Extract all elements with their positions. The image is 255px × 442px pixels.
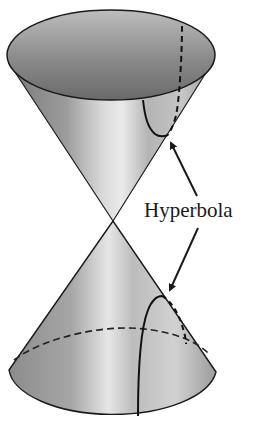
lower-nappe-side — [9, 221, 216, 414]
upper-nappe-opening — [7, 10, 215, 100]
arrow-to-upper-branch — [171, 143, 197, 196]
double-cone-diagram: Hyperbola — [0, 0, 255, 442]
arrow-to-lower-branch — [170, 228, 198, 290]
hyperbola-label: Hyperbola — [144, 198, 233, 222]
